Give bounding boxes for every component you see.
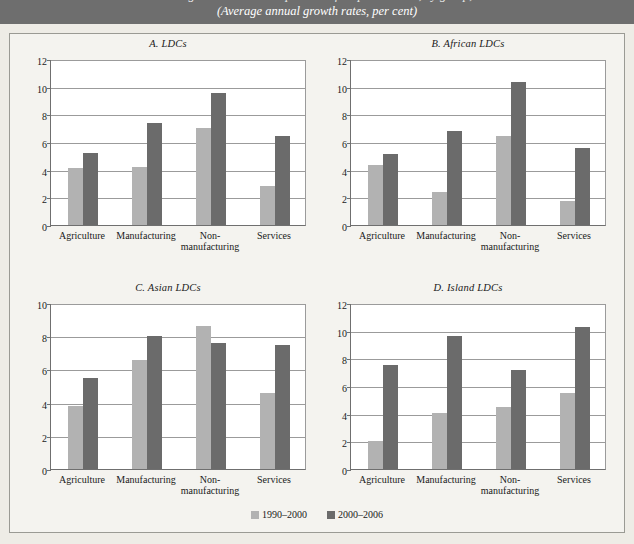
- bar-1990-2000: [496, 136, 511, 225]
- y-axis-tick-mark: [47, 143, 51, 144]
- bar-1990-2000: [68, 168, 83, 225]
- y-axis-tick-label: 2: [42, 194, 47, 205]
- x-axis-category-label-line: manufacturing: [162, 241, 258, 252]
- y-axis-tick-mark: [347, 198, 351, 199]
- bar-2000-2006: [83, 378, 98, 469]
- y-axis-tick-label: 2: [342, 194, 347, 205]
- plot-area-a: 024681012: [50, 60, 306, 226]
- y-axis-tick-mark: [47, 171, 51, 172]
- y-axis-tick-mark: [347, 415, 351, 416]
- x-axis-category-label-line: Services: [526, 230, 622, 241]
- y-axis-tick-mark: [47, 60, 51, 61]
- y-axis-tick-label: 10: [37, 83, 47, 94]
- x-axis-category-label-line: manufacturing: [462, 241, 558, 252]
- bar-2000-2006: [575, 327, 590, 469]
- y-axis-tick-label: 4: [42, 166, 47, 177]
- y-axis-tick-label: 6: [42, 366, 47, 377]
- y-axis-tick-label: 8: [42, 111, 47, 122]
- bar-1990-2000: [368, 165, 383, 225]
- y-axis-tick-mark: [347, 143, 351, 144]
- y-axis-tick-mark: [47, 226, 51, 227]
- y-axis-tick-mark: [347, 387, 351, 388]
- figure-subtitle: (Average annual growth rates, per cent): [0, 3, 634, 19]
- x-axis-category-label-line: Services: [226, 230, 322, 241]
- bar-1990-2000: [196, 128, 211, 225]
- chart-panel-c: C. Asian LDCs0246810AgricultureManufactu…: [18, 282, 318, 522]
- bar-2000-2006: [383, 154, 398, 225]
- bar-2000-2006: [511, 370, 526, 469]
- y-axis-tick-mark: [347, 470, 351, 471]
- y-axis-tick-label: 10: [37, 300, 47, 311]
- y-axis-tick-label: 8: [342, 111, 347, 122]
- gridline: [51, 337, 305, 338]
- chart-panel-a: A. LDCs024681012AgricultureManufacturing…: [18, 38, 318, 278]
- gridline: [51, 304, 305, 305]
- gridline: [351, 143, 605, 144]
- x-axis-category-label: Services: [226, 474, 322, 485]
- legend-item-dark: 2000–2006: [327, 509, 383, 520]
- bar-1990-2000: [132, 360, 147, 469]
- y-axis-tick-mark: [47, 115, 51, 116]
- y-axis-tick-mark: [347, 442, 351, 443]
- y-axis-tick-label: 2: [342, 438, 347, 449]
- y-axis-tick-mark: [47, 370, 51, 371]
- legend-item-label: 2000–2006: [338, 509, 383, 520]
- y-axis-tick-label: 6: [342, 139, 347, 150]
- gridline: [351, 88, 605, 89]
- x-axis-category-label-line: manufacturing: [162, 485, 258, 496]
- y-axis-tick-mark: [347, 359, 351, 360]
- bar-2000-2006: [383, 365, 398, 469]
- y-axis-tick-label: 4: [42, 399, 47, 410]
- plot-area-d: 024681012: [350, 304, 606, 470]
- gridline: [51, 115, 305, 116]
- bar-2000-2006: [275, 345, 290, 470]
- gridline: [51, 88, 305, 89]
- bar-2000-2006: [447, 336, 462, 469]
- y-axis-tick-label: 12: [337, 300, 347, 311]
- gridline: [351, 332, 605, 333]
- gridline: [51, 143, 305, 144]
- x-axis-category-label-line: manufacturing: [462, 485, 558, 496]
- y-axis-tick-mark: [47, 88, 51, 89]
- bar-1990-2000: [368, 441, 383, 469]
- y-axis-tick-mark: [47, 470, 51, 471]
- bar-1990-2000: [496, 407, 511, 469]
- bar-1990-2000: [260, 186, 275, 225]
- chart-legend: 1990–20002000–2006: [10, 508, 624, 520]
- plot-area-b: 024681012: [350, 60, 606, 226]
- y-axis-tick-mark: [347, 60, 351, 61]
- bar-2000-2006: [211, 93, 226, 225]
- chart-panel-d: D. Island LDCs024681012AgricultureManufa…: [318, 282, 618, 522]
- bar-1990-2000: [560, 393, 575, 469]
- bar-2000-2006: [275, 136, 290, 225]
- y-axis-tick-label: 10: [337, 83, 347, 94]
- y-axis-tick-mark: [47, 404, 51, 405]
- chart-panel-b: B. African LDCs024681012AgricultureManuf…: [318, 38, 618, 278]
- y-axis-tick-label: 10: [337, 327, 347, 338]
- bar-2000-2006: [147, 336, 162, 469]
- x-axis-category-label-line: Services: [226, 474, 322, 485]
- bar-2000-2006: [147, 123, 162, 225]
- gridline: [351, 359, 605, 360]
- y-axis-tick-label: 2: [42, 432, 47, 443]
- y-axis-tick-label: 4: [342, 166, 347, 177]
- y-axis-tick-label: 8: [42, 333, 47, 344]
- y-axis-tick-mark: [47, 337, 51, 338]
- legend-item-light: 1990–2000: [251, 509, 307, 520]
- bar-1990-2000: [432, 413, 447, 469]
- panel-title-a: A. LDCs: [18, 38, 318, 49]
- bar-1990-2000: [432, 192, 447, 225]
- gridline: [351, 115, 605, 116]
- bar-1990-2000: [132, 167, 147, 225]
- figure-title: Changes in sectoral composition of outpu…: [0, 0, 634, 2]
- legend-swatch-icon: [327, 511, 335, 519]
- bar-1990-2000: [560, 201, 575, 225]
- x-axis-category-label-line: Services: [526, 474, 622, 485]
- x-axis-category-label: Services: [226, 230, 322, 241]
- y-axis-tick-label: 6: [42, 139, 47, 150]
- x-axis-category-label: Services: [526, 474, 622, 485]
- plot-area-c: 0246810: [50, 304, 306, 470]
- figure-frame: A. LDCs024681012AgricultureManufacturing…: [9, 33, 625, 533]
- bar-2000-2006: [575, 148, 590, 225]
- y-axis-tick-mark: [47, 304, 51, 305]
